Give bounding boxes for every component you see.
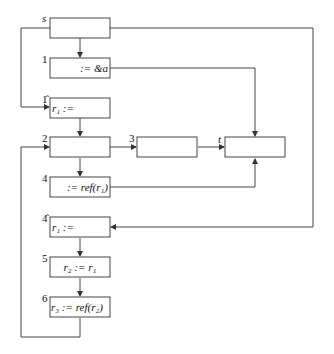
node-4: 4 := ref(r₁): [42, 172, 110, 197]
node-label: 3: [129, 132, 135, 144]
node-code: r₂ := r₁: [64, 261, 97, 273]
node-3: 3: [129, 132, 197, 157]
node-label: t: [218, 133, 222, 145]
node-2: 2: [42, 132, 110, 157]
node-4hat: 4̂ r₁ :=: [42, 212, 110, 237]
flow-diagram: s 1 := &a 1̂ r₁ := 2 3 t 4 := ref(r₁) 4̂…: [0, 0, 334, 354]
node-label: 1̂: [42, 93, 50, 105]
node-1: 1 := &a: [42, 53, 110, 78]
node-label: 6: [42, 292, 48, 304]
node-t: t: [218, 133, 285, 157]
node-6: 6 r₃ := ref(r₂): [42, 292, 110, 317]
node-5: 5 r₂ := r₁: [42, 252, 110, 277]
node-code: := &a: [80, 62, 108, 74]
node-code: r₁ :=: [52, 102, 74, 114]
node-label: 5: [42, 252, 48, 264]
edge-s-4hat: [110, 28, 313, 227]
node-label: 4̂: [42, 212, 50, 224]
edge-1-t: [110, 68, 255, 136]
node-s: s: [42, 12, 110, 38]
node-code: := ref(r₁): [67, 181, 108, 194]
node-code: r₃ := ref(r₂): [51, 301, 103, 314]
edge-4-t: [110, 159, 255, 187]
node-code: r₁ :=: [52, 221, 74, 233]
node-1hat: 1̂ r₁ :=: [42, 93, 110, 118]
node-label: 2: [42, 132, 48, 144]
node-label: 1: [42, 53, 48, 65]
node-label: 4: [42, 172, 48, 184]
node-label: s: [42, 12, 46, 24]
